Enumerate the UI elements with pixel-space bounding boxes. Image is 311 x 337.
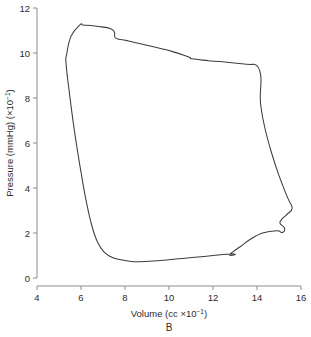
y-axis-title-text: Pressure (mmHg) (×10 xyxy=(4,100,15,197)
pressure-volume-loop-figure: 12 10 8 6 4 2 0 Pressure (mmHg) (×10−1) xyxy=(0,0,311,337)
x-axis-title: Volume (cc ×10−1) xyxy=(131,308,207,319)
y-axis-tick-labels: 12 10 8 6 4 2 0 xyxy=(19,3,30,284)
x-axis-tick-labels: 4 6 8 10 12 14 16 xyxy=(34,292,306,303)
x-tick-label: 6 xyxy=(78,292,83,303)
x-axis: 4 6 8 10 12 14 16 Volume (cc ×10−1) xyxy=(34,286,306,319)
y-axis-title: Pressure (mmHg) (×10−1) xyxy=(4,89,15,197)
chart-canvas: 12 10 8 6 4 2 0 Pressure (mmHg) (×10−1) xyxy=(0,0,311,337)
y-tick-label: 6 xyxy=(25,138,30,149)
y-axis-title-tail: ) xyxy=(4,89,15,92)
x-axis-title-text: Volume (cc ×10 xyxy=(131,308,197,319)
x-tick-label: 16 xyxy=(296,292,307,303)
x-tick-label: 12 xyxy=(208,292,219,303)
y-tick-label: 0 xyxy=(25,273,30,284)
y-tick-label: 4 xyxy=(25,183,30,194)
panel-label: B xyxy=(166,322,173,333)
x-tick-label: 14 xyxy=(252,292,263,303)
x-axis-title-tail: ) xyxy=(204,308,207,319)
y-axis: 12 10 8 6 4 2 0 Pressure (mmHg) (×10−1) xyxy=(4,3,37,284)
x-tick-label: 8 xyxy=(122,292,127,303)
y-tick-label: 2 xyxy=(25,228,30,239)
y-tick-label: 8 xyxy=(25,93,30,104)
x-tick-label: 4 xyxy=(34,292,39,303)
x-tick-label: 10 xyxy=(164,292,175,303)
pv-loop-curve xyxy=(66,24,292,262)
y-axis-ticks xyxy=(33,8,37,278)
y-tick-label: 10 xyxy=(19,48,30,59)
x-axis-ticks xyxy=(37,286,301,290)
y-tick-label: 12 xyxy=(19,3,30,14)
